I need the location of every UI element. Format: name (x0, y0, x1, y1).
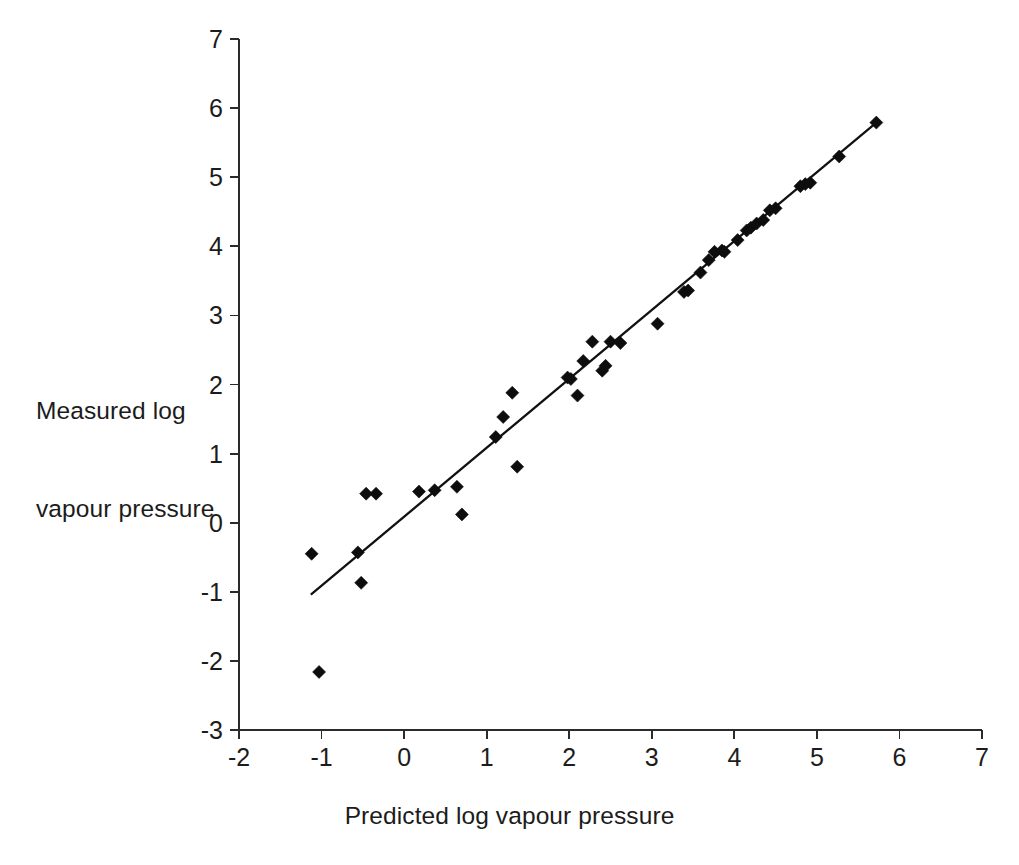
data-point (577, 355, 590, 368)
y-tick-label-10: 7 (209, 25, 223, 53)
trendline (311, 123, 877, 595)
data-point (412, 485, 425, 498)
data-point (497, 410, 510, 423)
data-point (305, 547, 318, 560)
data-point (355, 576, 368, 589)
x-tick-label-3: 1 (480, 743, 494, 771)
y-tick-label-9: 6 (209, 94, 223, 122)
x-tick-label-8: 6 (892, 743, 906, 771)
data-point (571, 389, 584, 402)
tick-marks (230, 39, 982, 739)
data-point (489, 431, 502, 444)
x-tick-label-5: 3 (645, 743, 659, 771)
data-point (455, 508, 468, 521)
data-point (694, 266, 707, 279)
data-point (586, 335, 599, 348)
data-point (511, 460, 524, 473)
x-tick-label-1: -1 (310, 743, 332, 771)
data-point (351, 546, 364, 559)
x-tick-label-9: 7 (975, 743, 989, 771)
y-tick-label-7: 4 (209, 232, 223, 260)
data-point (506, 386, 519, 399)
y-axis-title: Measured log vapour pressure (36, 330, 236, 591)
data-point (313, 665, 326, 678)
x-tick-label-4: 2 (562, 743, 576, 771)
y-tick-label-0: -3 (201, 716, 223, 744)
axes (239, 39, 982, 730)
data-point (450, 480, 463, 493)
y-tick-label-8: 5 (209, 163, 223, 191)
y-tick-label-6: 3 (209, 301, 223, 329)
x-tick-label-2: 0 (397, 743, 411, 771)
best-fit-line (311, 123, 877, 595)
x-axis-title: Predicted log vapour pressure (0, 800, 1019, 833)
x-tick-label-6: 4 (727, 743, 741, 771)
data-point (370, 487, 383, 500)
scatter-chart: -2-101234567-3-2-101234567 Measured log … (0, 0, 1019, 865)
y-axis-title-line1: Measured log (36, 395, 236, 428)
data-point (833, 150, 846, 163)
data-point (614, 337, 627, 350)
y-axis-title-line2: vapour pressure (36, 493, 236, 526)
data-point (651, 317, 664, 330)
x-tick-label-0: -2 (228, 743, 250, 771)
tick-labels: -2-101234567-3-2-101234567 (201, 25, 989, 771)
x-tick-label-7: 5 (810, 743, 824, 771)
data-points (305, 116, 883, 678)
y-tick-label-1: -2 (201, 647, 223, 675)
